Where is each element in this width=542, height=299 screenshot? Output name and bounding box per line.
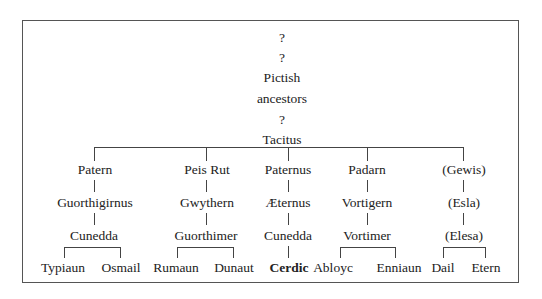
unknown-ancestor-3: ? — [279, 112, 285, 128]
connector-line — [206, 147, 207, 161]
branch-4-gen3: Vortimer — [343, 228, 391, 244]
branch-2-child-1: Rumaun — [153, 260, 199, 276]
tacitus-children-connector — [94, 147, 464, 148]
connector-line — [233, 247, 234, 258]
branch-4-gen2: Vortigern — [342, 195, 393, 211]
branch-1-child-1: Typiaun — [41, 260, 85, 276]
branch-2-gen3: Guorthimer — [175, 228, 238, 244]
ancestors-label: ancestors — [257, 91, 307, 107]
branch-5-gen1: (Gewis) — [442, 162, 486, 178]
connector-line — [120, 247, 121, 258]
branch-3-gen3: Cunedda — [264, 228, 312, 244]
connector-line — [367, 213, 368, 225]
branch-2-gen2: Gwythern — [180, 195, 234, 211]
branch-1-gen3: Cunedda — [70, 228, 118, 244]
connector-line — [340, 247, 341, 258]
unknown-ancestor-2: ? — [279, 50, 285, 66]
cerdic-node: Cerdic — [270, 260, 309, 276]
connector-line — [288, 246, 289, 258]
branch-2-gen1: Peis Rut — [184, 162, 229, 178]
branch-5-child-2: Etern — [471, 260, 500, 276]
branch-1-gen2: Guorthigirnus — [57, 195, 133, 211]
branch-5-child-1: Dail — [431, 260, 454, 276]
branch-1-gen1: Patern — [78, 162, 113, 178]
branch-4-child-1: Abloyc — [313, 260, 353, 276]
connector-line — [463, 180, 464, 192]
tacitus-node: Tacitus — [263, 132, 302, 148]
connector-line — [443, 247, 444, 258]
connector-line — [64, 247, 65, 258]
pictish-label: Pictish — [264, 70, 301, 86]
connector-line — [94, 147, 95, 161]
sibling-bracket — [64, 247, 121, 248]
sibling-bracket — [340, 247, 396, 248]
branch-3-gen2: Æternus — [266, 195, 311, 211]
branch-2-child-2: Dunaut — [214, 260, 254, 276]
connector-line — [463, 147, 464, 161]
connector-line — [94, 180, 95, 192]
connector-line — [94, 213, 95, 225]
unknown-ancestor-1: ? — [279, 30, 285, 46]
connector-line — [206, 180, 207, 192]
branch-5-gen2: (Esla) — [448, 195, 480, 211]
connector-line — [485, 247, 486, 258]
branch-3-gen1: Paternus — [265, 162, 312, 178]
connector-line — [288, 180, 289, 192]
branch-1-child-2: Osmail — [102, 260, 141, 276]
branch-4-gen1: Padarn — [348, 162, 386, 178]
sibling-bracket — [443, 247, 486, 248]
connector-line — [367, 147, 368, 161]
connector-line — [395, 247, 396, 258]
branch-4-child-2: Enniaun — [377, 260, 422, 276]
connector-line — [177, 247, 178, 258]
connector-line — [367, 180, 368, 192]
connector-line — [206, 213, 207, 225]
connector-line — [288, 147, 289, 161]
connector-line — [288, 213, 289, 225]
connector-line — [463, 213, 464, 225]
sibling-bracket — [177, 247, 234, 248]
branch-5-gen3: (Elesa) — [445, 228, 483, 244]
